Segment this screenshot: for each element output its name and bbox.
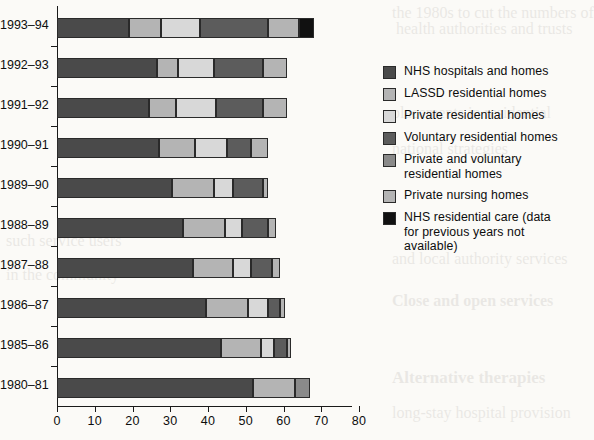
- bar-segment: [221, 338, 261, 358]
- bar-segment: [299, 18, 314, 38]
- x-axis-tick: [359, 406, 360, 412]
- bar-segment: [183, 218, 225, 238]
- y-axis-category-label: 1985–86: [0, 338, 48, 352]
- bar-segment: [193, 258, 233, 278]
- bar-segment: [157, 58, 178, 78]
- bar-row: [57, 338, 359, 358]
- bar-segment: [172, 178, 214, 198]
- legend-label: Voluntary residential homes: [404, 130, 558, 145]
- x-axis-tick-label: 10: [88, 414, 102, 428]
- bar-segment: [57, 298, 206, 318]
- x-axis-line: [57, 406, 352, 407]
- legend-item: LASSD residential homes: [383, 86, 567, 101]
- bar-segment: [57, 18, 129, 38]
- bar-segment: [57, 178, 172, 198]
- x-axis-tick-label: 30: [163, 414, 177, 428]
- legend-item: NHS hospitals and homes: [383, 64, 567, 79]
- y-axis-category-label: 1986–87: [0, 298, 48, 312]
- bar-row: [57, 258, 359, 278]
- bar-segment: [248, 298, 269, 318]
- bar-row: [57, 138, 359, 158]
- legend-swatch-icon: [383, 154, 396, 167]
- legend-item: Private residential homes: [383, 108, 567, 123]
- x-axis-tick: [208, 406, 209, 412]
- bar-segment: [216, 98, 263, 118]
- bar-segment: [261, 338, 274, 358]
- x-axis-tick: [57, 406, 58, 412]
- x-axis-tick: [170, 406, 171, 412]
- legend-label: NHS residential care (data for previous …: [404, 210, 567, 254]
- bar-segment: [242, 218, 268, 238]
- chart-legend: NHS hospitals and homesLASSD residential…: [383, 64, 567, 261]
- x-axis-tick-label: 70: [314, 414, 328, 428]
- bar-segment: [272, 258, 280, 278]
- legend-swatch-icon: [383, 66, 396, 79]
- bar-row: [57, 298, 359, 318]
- bar-segment: [287, 338, 291, 358]
- legend-item: Private and voluntary residential homes: [383, 152, 567, 181]
- bar-segment: [274, 338, 287, 358]
- bar-segment: [263, 98, 288, 118]
- bar-segment: [263, 178, 269, 198]
- bar-segment: [268, 218, 276, 238]
- bar-row: [57, 218, 359, 238]
- bar-segment: [176, 98, 216, 118]
- bar-segment: [178, 58, 214, 78]
- bar-row: [57, 178, 359, 198]
- legend-item: Voluntary residential homes: [383, 130, 567, 145]
- y-axis-category-label: 1991–92: [0, 98, 48, 112]
- x-axis-tick: [95, 406, 96, 412]
- x-axis-tick-label: 20: [125, 414, 139, 428]
- y-axis-category-label: 1987–88: [0, 258, 48, 272]
- bar-segment: [206, 298, 248, 318]
- legend-item: Private nursing homes: [383, 188, 567, 203]
- legend-label: LASSD residential homes: [404, 86, 546, 101]
- bar-segment: [57, 138, 159, 158]
- x-axis-tick-label: 80: [352, 414, 366, 428]
- y-axis-category-label: 1980–81: [0, 378, 48, 392]
- legend-swatch-icon: [383, 132, 396, 145]
- y-axis-category-label: 1988–89: [0, 218, 48, 232]
- legend-swatch-icon: [383, 110, 396, 123]
- bar-segment: [200, 18, 268, 38]
- y-axis-category-label: 1990–91: [0, 138, 48, 152]
- bar-segment: [225, 218, 242, 238]
- bar-segment: [214, 178, 233, 198]
- x-axis-tick: [321, 406, 322, 412]
- bar-row: [57, 58, 359, 78]
- bar-segment: [159, 138, 195, 158]
- bar-segment: [57, 58, 157, 78]
- legend-item: NHS residential care (data for previous …: [383, 210, 567, 254]
- bar-segment: [233, 178, 263, 198]
- bar-segment: [295, 378, 310, 398]
- y-axis-category-label: 1992–93: [0, 58, 48, 72]
- legend-label: Private and voluntary residential homes: [404, 152, 567, 181]
- bar-segment: [57, 378, 253, 398]
- x-axis-tick-label: 60: [276, 414, 290, 428]
- bar-segment: [214, 58, 263, 78]
- bar-segment: [129, 18, 161, 38]
- x-axis-tick-label: 50: [239, 414, 253, 428]
- legend-swatch-icon: [383, 88, 396, 101]
- bar-segment: [268, 298, 279, 318]
- y-axis-category-label: 1993–94: [0, 18, 48, 32]
- bar-segment: [227, 138, 252, 158]
- x-axis-tick-label: 40: [201, 414, 215, 428]
- bar-row: [57, 98, 359, 118]
- bar-segment: [263, 58, 288, 78]
- bar-segment: [57, 338, 221, 358]
- x-axis-tick-label: 0: [53, 414, 60, 428]
- bar-segment: [57, 218, 183, 238]
- bar-segment: [251, 138, 268, 158]
- legend-label: Private nursing homes: [404, 188, 528, 203]
- x-axis-tick: [284, 406, 285, 412]
- legend-swatch-icon: [383, 212, 396, 225]
- x-axis-tick: [133, 406, 134, 412]
- bar-segment: [253, 378, 295, 398]
- bar-segment: [149, 98, 175, 118]
- legend-label: Private residential homes: [404, 108, 545, 123]
- bar-segment: [195, 138, 227, 158]
- bar-row: [57, 18, 359, 38]
- bar-segment: [57, 258, 193, 278]
